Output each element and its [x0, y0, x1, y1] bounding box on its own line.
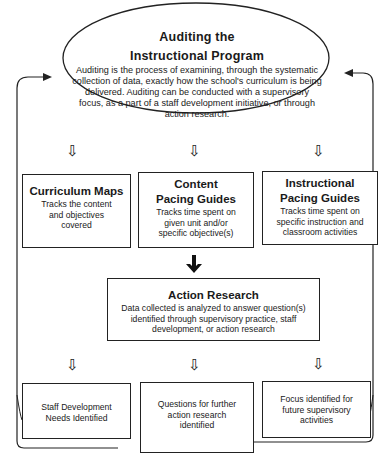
questions-further-research-box: Questions for further action research id…: [140, 382, 254, 453]
instructional-pacing-guides-box: Instructional Pacing Guides Tracks time …: [262, 171, 378, 245]
curriculum-maps-box: Curriculum Maps Tracks the content and o…: [22, 174, 131, 248]
future-supervisory-focus-box: Focus identified for future supervisory …: [262, 381, 371, 438]
down-arrow-icon: ⇩: [312, 356, 325, 371]
instructional-pacing-description: Tracks time spent on specific instructio…: [263, 206, 377, 238]
action-research-description: Data collected is analyzed to answer que…: [108, 303, 319, 335]
action-research-box: Action Research Data collected is analyz…: [107, 278, 320, 341]
down-arrow-icon: ⇩: [66, 143, 79, 158]
left-feedback-arrowhead-icon: [43, 73, 52, 81]
down-arrow-icon: ⇩: [188, 143, 201, 158]
bold-down-arrow-icon: [185, 254, 203, 274]
content-pacing-title-line2: Pacing Guides: [139, 192, 253, 207]
down-arrow-icon: ⇩: [66, 357, 79, 372]
staff-development-label: Staff Development Needs Identified: [37, 402, 116, 423]
right-feedback-arrowhead-icon: [344, 69, 353, 77]
questions-further-research-label: Questions for further action research id…: [155, 399, 239, 431]
auditing-header: Auditing the Instructional Program Audit…: [72, 28, 322, 120]
instructional-pacing-title-line1: Instructional: [263, 176, 377, 191]
instructional-pacing-title-line2: Pacing Guides: [263, 191, 377, 206]
header-title-line2: Instructional Program: [72, 47, 322, 66]
staff-development-box: Staff Development Needs Identified: [22, 383, 131, 439]
future-supervisory-focus-label: Focus identified for future supervisory …: [269, 394, 364, 426]
curriculum-maps-description: Tracks the content and objectives covere…: [23, 199, 130, 231]
down-arrow-icon: ⇩: [312, 143, 325, 158]
down-arrow-icon: ⇩: [188, 357, 201, 372]
content-pacing-guides-box: Content Pacing Guides Tracks time spent …: [138, 172, 254, 248]
content-pacing-description: Tracks time spent on given unit and/or s…: [139, 207, 253, 239]
header-description: Auditing is the process of examining, th…: [72, 65, 322, 120]
header-title-line1: Auditing the: [72, 28, 322, 47]
curriculum-maps-title: Curriculum Maps: [23, 184, 130, 199]
action-research-title: Action Research: [108, 288, 319, 303]
content-pacing-title-line1: Content: [139, 177, 253, 192]
